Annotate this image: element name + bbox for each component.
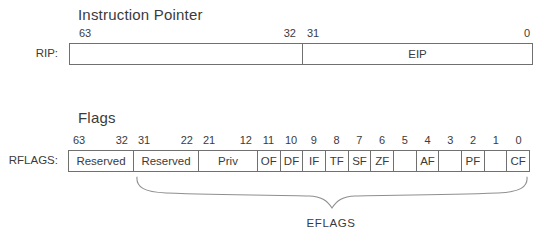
rflags-register-label: RFLAGS:	[0, 154, 58, 166]
bit-number: 4	[416, 134, 439, 147]
bit-number: 63	[79, 27, 91, 40]
rip-low-dword-bits: 31 0	[302, 27, 533, 40]
bit-number: 11	[257, 134, 280, 147]
bit-number: 32	[116, 134, 128, 147]
bit-number: 32	[284, 27, 296, 40]
bit-number: 21	[203, 134, 215, 147]
bit-number: 31	[307, 27, 319, 40]
flag-field-zf: ZF	[371, 151, 394, 171]
flag-field-tf: TF	[326, 151, 349, 171]
rflags-range-bits: 31 22	[133, 134, 198, 147]
bit-number: 22	[181, 134, 193, 147]
flag-field-cf: CF	[507, 151, 529, 171]
flag-field-df: DF	[281, 151, 304, 171]
rflags-register-box: Reserved Reserved Priv OF DF IF TF SF ZF…	[68, 150, 530, 172]
bit-number: 12	[240, 134, 252, 147]
flags-title: Flags	[78, 109, 116, 126]
rip-bit-numbers: 63 32 31 0	[69, 27, 533, 40]
bit-number: 1	[485, 134, 508, 147]
flag-field-bit5	[394, 151, 417, 171]
flag-field-if: IF	[303, 151, 326, 171]
bit-number: 63	[73, 134, 85, 147]
reserved-field: Reserved	[69, 151, 134, 171]
rip-high-dword-field	[70, 44, 303, 64]
rip-register-box: EIP	[69, 43, 533, 65]
eflags-brace	[131, 174, 531, 212]
flag-field-bit1	[485, 151, 508, 171]
rflags-bit-numbers: 63 32 31 22 21 12 11 10 9 8 7 6 5 4 3 2 …	[68, 134, 530, 147]
flag-field-of: OF	[258, 151, 281, 171]
bit-number: 10	[280, 134, 303, 147]
eip-field: EIP	[303, 44, 532, 64]
bit-number: 9	[303, 134, 326, 147]
flag-field-pf: PF	[462, 151, 485, 171]
flag-field-sf: SF	[349, 151, 372, 171]
bit-number: 6	[371, 134, 394, 147]
bit-number: 2	[462, 134, 485, 147]
eflags-label: EFLAGS	[131, 217, 531, 229]
bit-number: 3	[439, 134, 462, 147]
rip-register-label: RIP:	[0, 47, 58, 59]
flag-field-bit3	[439, 151, 462, 171]
bit-number: 7	[348, 134, 371, 147]
rflags-range-bits: 63 32	[68, 134, 133, 147]
bit-number: 0	[524, 27, 530, 40]
bit-number: 0	[507, 134, 530, 147]
rflags-range-bits: 21 12	[198, 134, 257, 147]
rip-high-dword-bits: 63 32	[69, 27, 302, 40]
bit-number: 8	[325, 134, 348, 147]
instruction-pointer-title: Instruction Pointer	[78, 6, 203, 23]
reserved-field: Reserved	[134, 151, 199, 171]
flag-field-af: AF	[417, 151, 440, 171]
bit-number: 31	[138, 134, 150, 147]
bit-number: 5	[394, 134, 417, 147]
priv-field: Priv	[199, 151, 258, 171]
